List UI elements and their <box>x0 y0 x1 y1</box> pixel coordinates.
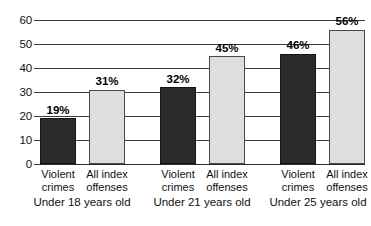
gridline-40 <box>40 68 365 69</box>
y-axis-tick-label-40: 40 <box>10 63 32 75</box>
bar-value-under25-violent-crimes: 46% <box>280 39 316 51</box>
bar-under25-violent-crimes <box>280 54 316 164</box>
x-axis-label-line-2: offenses <box>318 181 371 194</box>
group-label-under-21: Under 21 years old <box>142 196 262 209</box>
x-axis-label-line-2: offenses <box>198 181 256 194</box>
y-axis-tick-label-30: 30 <box>10 87 32 99</box>
x-axis-label-line-1: All index <box>318 168 371 181</box>
x-axis-label-under21-all-index-offenses: All index offenses <box>198 168 256 193</box>
group-label-under-18: Under 18 years old <box>22 196 142 209</box>
bar-under18-all-index-offenses <box>89 90 125 164</box>
gridline-60 <box>40 20 365 21</box>
group-label-under-25: Under 25 years old <box>262 196 371 209</box>
bar-value-under21-all-index-offenses: 45% <box>209 42 245 54</box>
gridline-50 <box>40 44 365 45</box>
bar-value-under25-all-index-offenses: 56% <box>329 15 365 27</box>
bar-under21-all-index-offenses <box>209 56 245 164</box>
bar-value-under18-all-index-offenses: 31% <box>89 75 125 87</box>
x-axis-baseline <box>40 164 365 165</box>
x-axis-label-under25-all-index-offenses: All index offenses <box>318 168 371 193</box>
bar-under25-all-index-offenses <box>329 30 365 164</box>
x-axis-label-under18-all-index-offenses: All index offenses <box>78 168 136 193</box>
plot-area: 19% 31% 32% 45% 46% 56% <box>40 20 365 164</box>
bar-under21-violent-crimes <box>160 87 196 164</box>
y-axis-tick-label-20: 20 <box>10 111 32 123</box>
bar-under18-violent-crimes <box>40 118 76 164</box>
y-axis-tick-label-50: 50 <box>10 39 32 51</box>
bar-value-under21-violent-crimes: 32% <box>160 73 196 85</box>
y-axis-tick-label-60: 60 <box>10 15 32 27</box>
y-axis-tick-label-10: 10 <box>10 135 32 147</box>
x-axis-label-line-1: All index <box>198 168 256 181</box>
x-axis-label-line-2: offenses <box>78 181 136 194</box>
x-axis-label-line-1: All index <box>78 168 136 181</box>
bar-value-under18-violent-crimes: 19% <box>40 104 76 116</box>
bar-chart: 60 50 40 30 20 10 0 19% 31% 32% 45% 46% … <box>0 0 371 226</box>
